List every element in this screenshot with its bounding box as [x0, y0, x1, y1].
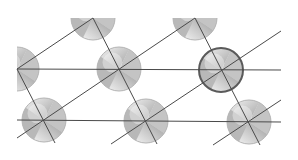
atom — [173, 0, 217, 40]
lattice-diagram — [0, 0, 298, 160]
lattice-canvas — [0, 0, 298, 160]
lattice-line — [17, 18, 93, 69]
atom — [71, 0, 115, 40]
